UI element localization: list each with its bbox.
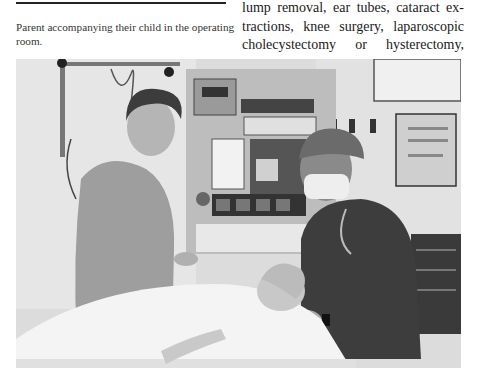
photo-illustration — [16, 59, 461, 368]
body-text-line: tractions, knee surgery, laparoscopic — [242, 18, 464, 37]
operating-room-photo — [16, 59, 461, 368]
caption-top-rule — [16, 2, 226, 4]
body-text-column: lump removal, ear tubes, cataract ex- tr… — [242, 0, 464, 55]
body-text-line: cholecystectomy or hysterectomy, — [242, 36, 464, 55]
body-text-line: lump removal, ear tubes, cataract ex- — [242, 0, 464, 18]
figure-caption: Parent accompanying their child in the o… — [16, 20, 241, 48]
